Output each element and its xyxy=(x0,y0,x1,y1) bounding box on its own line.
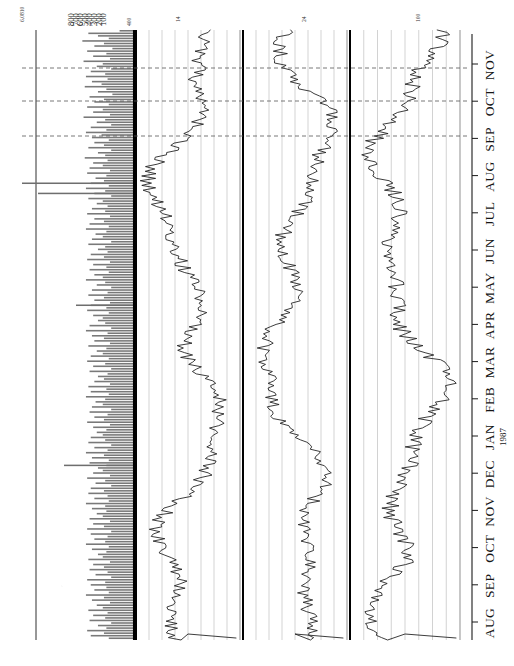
histogram-bar xyxy=(109,38,134,40)
histogram-bar xyxy=(104,490,134,492)
month-label: MAY xyxy=(482,272,497,303)
histogram-bar xyxy=(87,172,134,174)
histogram-bar xyxy=(92,137,134,139)
histogram-bar xyxy=(111,327,134,329)
histogram-bar-outlier xyxy=(64,465,134,467)
histogram-bar xyxy=(103,434,134,436)
histogram-bar xyxy=(108,414,134,416)
figure-canvas: AUGSEPOCTNOVDECJAN1987FEBMARAPRMAYJUNJUL… xyxy=(0,0,514,666)
histogram-bar xyxy=(105,246,134,248)
month-label: APR xyxy=(482,312,497,339)
histogram-bar xyxy=(92,208,134,210)
histogram-bar xyxy=(92,238,134,240)
histogram-bar xyxy=(93,427,134,429)
histogram-bar xyxy=(104,99,134,101)
histogram-bar xyxy=(108,78,134,80)
histogram-bar xyxy=(103,515,134,517)
histogram-bar xyxy=(110,261,134,263)
histogram-bar xyxy=(109,393,134,395)
histogram-bar xyxy=(88,244,134,246)
histogram-bar xyxy=(88,442,134,444)
panel-1-header: 6,0810 xyxy=(19,6,25,22)
histogram-bar xyxy=(94,498,134,500)
histogram-bar xyxy=(105,322,134,324)
histogram-bar xyxy=(92,289,134,291)
histogram-bar xyxy=(92,457,134,459)
histogram-bar xyxy=(98,91,134,93)
histogram-bar xyxy=(86,503,134,505)
histogram-bar xyxy=(93,366,134,368)
histogram-bar-outlier xyxy=(76,305,134,307)
histogram-bar xyxy=(97,432,134,434)
histogram-bar xyxy=(110,475,134,477)
histogram-bar xyxy=(109,271,134,273)
histogram-bar xyxy=(103,165,134,167)
histogram-bar xyxy=(85,86,134,88)
histogram-bar xyxy=(88,345,134,347)
trace-panel-b xyxy=(243,30,347,640)
month-label: SEP xyxy=(482,127,497,151)
histogram-bar xyxy=(96,177,134,179)
histogram-bar xyxy=(88,386,134,388)
histogram-bar xyxy=(86,76,134,78)
histogram-bar xyxy=(92,508,134,510)
month-label: OCT xyxy=(482,534,497,563)
trace-panel-a xyxy=(136,30,240,640)
histogram-bar xyxy=(109,185,134,187)
histogram-bar xyxy=(109,592,134,594)
histogram-bar xyxy=(106,587,134,589)
histogram-bar xyxy=(104,297,134,299)
histogram-bar xyxy=(103,353,134,355)
histogram-bar xyxy=(87,106,134,108)
histogram-bar xyxy=(91,635,134,637)
histogram-bar xyxy=(109,637,134,639)
histogram-bar xyxy=(106,129,134,131)
histogram-bar xyxy=(87,579,134,581)
histogram-bar xyxy=(108,536,134,538)
histogram-bar xyxy=(105,190,134,192)
histogram-bar xyxy=(108,251,134,253)
month-label: JUL xyxy=(482,202,497,226)
histogram-bar xyxy=(103,556,134,558)
histogram-bar xyxy=(90,518,134,520)
histogram-bar xyxy=(86,132,134,134)
histogram-bar xyxy=(109,139,134,141)
histogram-bar xyxy=(105,210,134,212)
histogram-bar xyxy=(84,116,134,118)
histogram-bar xyxy=(90,167,134,169)
histogram-bar xyxy=(106,231,134,233)
histogram-bar xyxy=(104,632,134,634)
histogram-bar xyxy=(93,55,134,57)
histogram-bar xyxy=(93,264,134,266)
histogram-bar xyxy=(97,66,134,68)
histogram-bar xyxy=(90,371,134,373)
histogram-bar xyxy=(91,391,134,393)
histogram-bar xyxy=(96,401,134,403)
histogram-bar xyxy=(120,30,134,32)
year-label: 1987 xyxy=(498,428,508,447)
histogram-bar xyxy=(105,155,134,157)
month-label: JAN xyxy=(482,424,497,450)
histogram-bar xyxy=(105,73,134,75)
histogram-bar xyxy=(93,315,134,317)
histogram-bar xyxy=(91,254,134,256)
histogram-bar xyxy=(97,284,134,286)
histogram-bar xyxy=(106,307,134,309)
month-label: DEC xyxy=(482,460,497,488)
histogram-bar xyxy=(104,144,134,146)
histogram-bar xyxy=(103,109,134,111)
histogram-bar xyxy=(109,500,134,502)
histogram-bar xyxy=(91,488,134,490)
histogram-bar xyxy=(105,439,134,441)
histogram-bar xyxy=(105,505,134,507)
histogram-bar xyxy=(91,533,134,535)
histogram-bar xyxy=(94,589,134,591)
histogram-bar xyxy=(110,561,134,563)
panel-5-header: 100 xyxy=(415,13,421,22)
panel-2-tick-label: 100 xyxy=(98,13,108,26)
histogram-bar xyxy=(90,620,134,622)
histogram-bar xyxy=(110,170,134,172)
histogram-bar xyxy=(108,373,134,375)
histogram-bar xyxy=(103,317,134,319)
histogram-bar xyxy=(110,58,134,60)
